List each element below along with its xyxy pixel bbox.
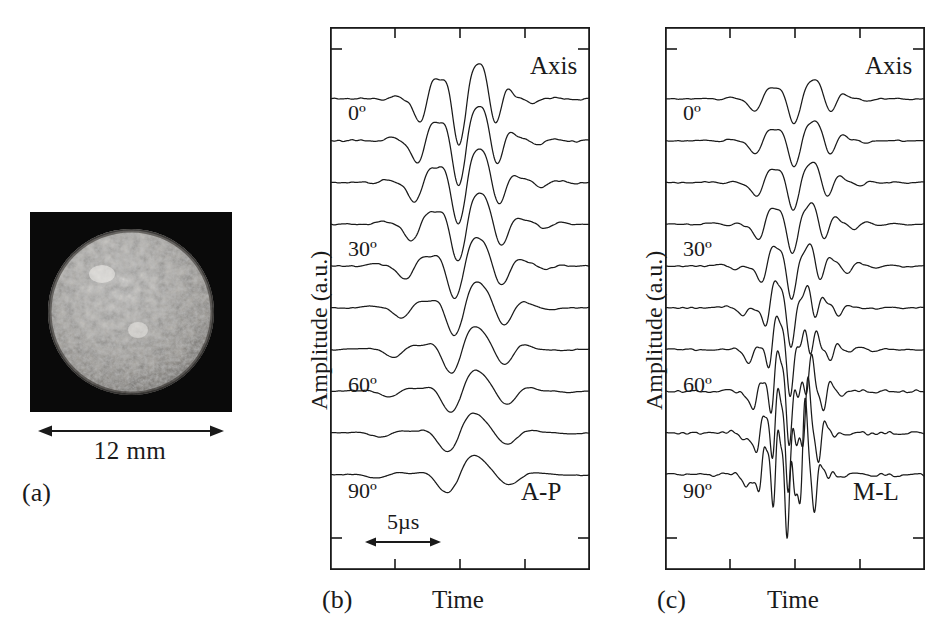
- specimen-scale-label: 12 mm: [30, 437, 230, 465]
- panel-c-xlabel: Time: [767, 586, 819, 614]
- panel-a: 12 mm (a): [0, 0, 300, 641]
- panel-b-tag: (b): [322, 585, 352, 615]
- panel-b-label-30deg: 30º: [348, 236, 377, 262]
- specimen-scale-arrow: [38, 424, 224, 438]
- bone-specimen-image: [30, 212, 232, 412]
- panel-c-label-60deg: 60º: [683, 372, 712, 398]
- panel-c-label-30deg: 30º: [683, 236, 712, 262]
- panel-b-label-0deg: 0º: [348, 100, 366, 126]
- panel-b-axis-annotation: Axis: [530, 52, 577, 80]
- figure-root: 12 mm (a) Amplitude (a.u.) 0 Axis 0º 30º…: [0, 0, 951, 641]
- panel-b: Amplitude (a.u.) 0 Axis 0º 30º 60º 90º A…: [280, 0, 620, 641]
- panel-c-label-0deg: 0º: [683, 100, 701, 126]
- panel-b-ylabel: Amplitude (a.u.): [306, 251, 333, 410]
- panel-c-ylabel: Amplitude (a.u.): [641, 251, 668, 410]
- panel-c-label-90deg: 90º: [683, 478, 712, 504]
- panel-b-xlabel: Time: [432, 586, 484, 614]
- panel-c-direction-annotation: M-L: [853, 478, 899, 506]
- panel-b-direction-annotation: A-P: [521, 478, 561, 506]
- panel-c-axis-annotation: Axis: [865, 52, 912, 80]
- panel-b-scale-label: 5µs: [387, 509, 419, 535]
- panel-c-tag: (c): [657, 585, 686, 615]
- panel-b-label-90deg: 90º: [348, 478, 377, 504]
- specimen-photo-svg: [30, 212, 232, 412]
- panel-b-label-60deg: 60º: [348, 372, 377, 398]
- panel-c: Amplitude (a.u.) Axis 0º 30º 60º 90º M-L…: [615, 0, 951, 641]
- panel-a-tag: (a): [22, 478, 51, 508]
- panel-b-scale-arrow: [365, 536, 441, 548]
